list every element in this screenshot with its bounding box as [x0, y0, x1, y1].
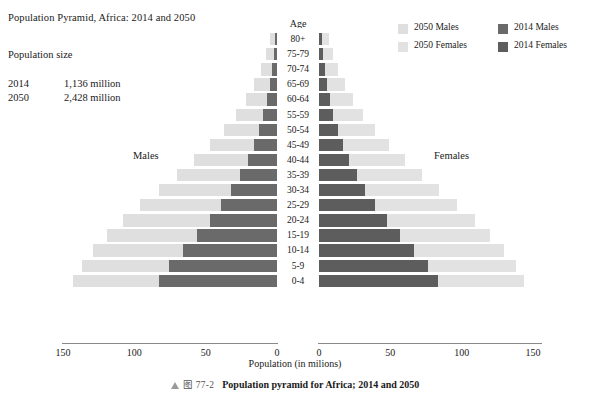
bar-2014-males: [159, 275, 277, 287]
age-group-label: 50-54: [277, 123, 319, 138]
bar-2014-males: [240, 169, 277, 181]
x-axis-line-left: [62, 343, 278, 344]
females-side-label: Females: [434, 150, 469, 161]
x-tick-left-50: 50: [186, 347, 226, 358]
bar-2014-females: [319, 93, 330, 105]
bar-2014-males: [267, 93, 277, 105]
figure-caption-text: Population pyramid for Africa; 2014 and …: [222, 379, 419, 390]
pyramid-row: 0-4: [0, 274, 590, 289]
age-group-label: 0-4: [277, 274, 319, 289]
pyramid-row: 35-39: [0, 168, 590, 183]
pyramid-row: 25-29: [0, 198, 590, 213]
age-group-label: 5-9: [277, 259, 319, 274]
age-group-label: 80+: [277, 32, 319, 47]
age-group-label: 45-49: [277, 138, 319, 153]
bar-2014-males: [263, 109, 277, 121]
x-tick-right-100: 100: [442, 347, 482, 358]
age-group-label: 75-79: [277, 47, 319, 62]
bar-2014-males: [270, 78, 277, 90]
x-tick-left-0: 0: [257, 347, 297, 358]
x-tick-left-100: 100: [114, 347, 154, 358]
bar-2014-females: [319, 199, 375, 211]
x-tick-right-50: 50: [370, 347, 410, 358]
age-group-label: 25-29: [277, 198, 319, 213]
pyramid-row: 65-69: [0, 77, 590, 92]
bar-2014-females: [319, 214, 387, 226]
bar-2014-females: [319, 154, 349, 166]
pyramid-row: 55-59: [0, 108, 590, 123]
bar-2014-females: [319, 244, 414, 256]
bar-2014-females: [319, 78, 327, 90]
population-pyramid-figure: Population Pyramid, Africa: 2014 and 205…: [0, 0, 590, 398]
bar-2014-males: [169, 260, 277, 272]
bar-2014-females: [319, 260, 428, 272]
x-tick-right-0: 0: [299, 347, 339, 358]
bar-2014-males: [259, 124, 277, 136]
plot-area: Age 80+75-7970-7465-6960-6455-5950-5445-…: [0, 18, 590, 344]
bar-2014-females: [319, 124, 338, 136]
age-group-label: 40-44: [277, 153, 319, 168]
males-side-label: Males: [133, 150, 159, 161]
bar-2014-males: [183, 244, 277, 256]
x-tick-right-150: 150: [513, 347, 553, 358]
triangle-marker-icon: [171, 382, 179, 389]
x-tick-left-150: 150: [43, 347, 83, 358]
bar-2014-males: [231, 184, 277, 196]
x-axis-label: Population (in milions): [0, 358, 590, 369]
x-axis: [0, 343, 590, 345]
pyramid-row: 75-79: [0, 47, 590, 62]
pyramid-row: 50-54: [0, 123, 590, 138]
age-group-label: 35-39: [277, 168, 319, 183]
pyramid-row: 20-24: [0, 213, 590, 228]
pyramid-row: 80+: [0, 32, 590, 47]
bar-2014-females: [319, 48, 323, 60]
pyramid-row: 5-9: [0, 259, 590, 274]
bar-2014-males: [197, 229, 277, 241]
age-group-label: 30-34: [277, 183, 319, 198]
pyramid-row: 70-74: [0, 62, 590, 77]
bar-2014-females: [319, 139, 343, 151]
bar-2014-males: [221, 199, 277, 211]
age-group-label: 70-74: [277, 62, 319, 77]
age-group-label: 60-64: [277, 92, 319, 107]
bar-2014-females: [319, 275, 438, 287]
x-axis-line-right: [318, 343, 542, 344]
age-group-label: 55-59: [277, 108, 319, 123]
figure-caption: 图 77-2Population pyramid for Africa; 201…: [0, 377, 590, 395]
age-group-label: 10-14: [277, 243, 319, 258]
age-group-label: 65-69: [277, 77, 319, 92]
bar-2014-females: [319, 109, 333, 121]
bar-2014-females: [319, 33, 322, 45]
pyramid-row: 45-49: [0, 138, 590, 153]
bar-2014-females: [319, 229, 400, 241]
pyramid-row: 15-19: [0, 228, 590, 243]
bar-2014-females: [319, 63, 325, 75]
bar-2014-females: [319, 169, 357, 181]
age-group-label: 20-24: [277, 213, 319, 228]
age-group-label: 15-19: [277, 228, 319, 243]
bar-2014-males: [248, 154, 277, 166]
figure-number: 图 77-2: [183, 377, 215, 391]
bar-2014-males: [254, 139, 277, 151]
pyramid-row: 30-34: [0, 183, 590, 198]
pyramid-row: 10-14: [0, 243, 590, 258]
pyramid-row: 40-44: [0, 153, 590, 168]
bar-2014-males: [210, 214, 277, 226]
pyramid-row: 60-64: [0, 92, 590, 107]
bar-2014-females: [319, 184, 365, 196]
